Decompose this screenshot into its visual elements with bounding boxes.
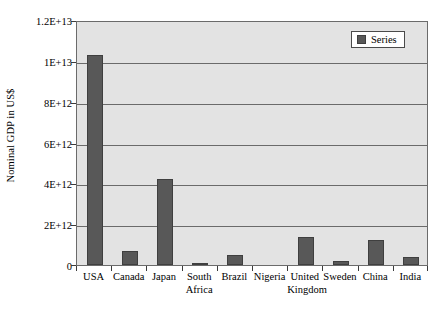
bar[interactable] — [192, 263, 208, 265]
x-axis-tick-label: Nigeria — [252, 271, 287, 284]
x-axis-tick-label: SouthAfrica — [182, 271, 217, 296]
x-axis-tick-label-line1: United — [290, 271, 319, 282]
bar[interactable] — [403, 257, 419, 265]
bar[interactable] — [227, 255, 243, 265]
x-axis-tick-label: Japan — [146, 271, 181, 284]
y-axis-tick-marks — [0, 21, 76, 266]
bar[interactable] — [157, 179, 173, 265]
bar[interactable] — [368, 240, 384, 265]
bar-chart: Nominal GDP in US$ 02E+124E+126E+128E+12… — [0, 0, 446, 309]
x-axis-tick-label-line1: India — [400, 271, 422, 282]
x-axis-tick-label-line1: Sweden — [323, 271, 356, 282]
bar[interactable] — [333, 261, 349, 265]
plot-area — [76, 21, 428, 266]
x-axis-tick-label: India — [393, 271, 428, 284]
x-axis-tick-labels: USACanadaJapanSouthAfricaBrazilNigeriaUn… — [76, 271, 428, 307]
x-axis-tick-label: Sweden — [322, 271, 357, 284]
legend-label-series: Series — [371, 34, 397, 45]
x-axis-tick-label: Brazil — [217, 271, 252, 284]
x-axis-tick-label: Canada — [111, 271, 146, 284]
bar[interactable] — [122, 251, 138, 265]
x-axis-tick-label-line1: South — [187, 271, 212, 282]
x-axis-tick-label-line1: USA — [83, 271, 104, 282]
legend-swatch-series — [357, 35, 366, 44]
x-axis-tick-label: UnitedKingdom — [287, 271, 322, 296]
x-axis-tick-label: USA — [76, 271, 111, 284]
x-axis-tick-label: China — [358, 271, 393, 284]
bar[interactable] — [87, 55, 103, 265]
legend: Series — [351, 31, 405, 48]
bars-layer — [77, 22, 427, 265]
x-axis-tick-label-line1: Brazil — [222, 271, 248, 282]
x-axis-tick-label-line1: China — [363, 271, 388, 282]
bar[interactable] — [298, 237, 314, 265]
x-axis-tick-label-line1: Nigeria — [254, 271, 286, 282]
x-axis-tick-label-line2: Africa — [182, 284, 217, 297]
x-axis-tick-label-line1: Canada — [113, 271, 145, 282]
x-axis-tick-label-line1: Japan — [152, 271, 176, 282]
x-axis-tick-label-line2: Kingdom — [287, 284, 322, 297]
